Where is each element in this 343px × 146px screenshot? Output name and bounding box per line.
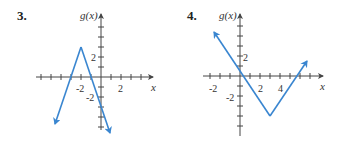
x-tick-label-4: 4	[278, 83, 283, 94]
graph-4-plot: g(x) x -2 2 4 2 -2	[170, 0, 343, 146]
x-tick-label-2: 2	[118, 83, 123, 94]
x-tick-label-neg2: -2	[209, 83, 217, 94]
graph-panel-4: 4. g(x) x	[170, 0, 343, 146]
graph-3-plot: g(x) x -2 2 2 -2	[0, 0, 170, 146]
graph-panel-3: 3. g(x)	[0, 0, 170, 146]
y-tick-label-neg2: -2	[86, 92, 94, 103]
graph-line-right	[270, 61, 307, 116]
y-axis-label: g(x)	[80, 9, 98, 22]
y-tick-label-2: 2	[91, 52, 96, 63]
graph-line-left	[214, 32, 270, 116]
x-axis-label: x	[319, 80, 325, 92]
x-tick-label-2: 2	[258, 83, 263, 94]
y-tick-label-neg2: -2	[226, 92, 234, 103]
x-axis-label: x	[150, 81, 156, 93]
x-tick-label-neg2: -2	[76, 83, 84, 94]
y-axis-label: g(x)	[219, 9, 237, 22]
y-tick-label-2: 2	[243, 52, 248, 63]
